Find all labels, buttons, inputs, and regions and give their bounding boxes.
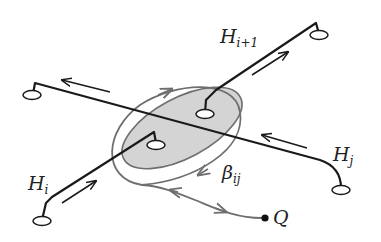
h-i1-outer-puncture (310, 31, 328, 40)
h-j-end-puncture (332, 186, 350, 195)
label-h-j-main: H (333, 143, 350, 165)
h-j-arrow-left (62, 80, 110, 92)
point-q (261, 214, 268, 221)
label-h-j: Hj (333, 145, 353, 167)
label-h-i-sub: i (45, 183, 49, 197)
diagram-canvas: Hi Hi+1 Hj βij Q (0, 0, 381, 242)
label-q-main: Q (273, 206, 289, 228)
h-i1-inner-puncture (196, 110, 214, 119)
h-i-outer-puncture (33, 217, 51, 226)
label-beta-main: β (222, 161, 233, 183)
label-h-i-plus-1: Hi+1 (220, 27, 258, 49)
tail-arrow-2 (215, 208, 226, 212)
label-q: Q (273, 208, 289, 227)
label-beta-ij: βij (222, 163, 241, 185)
label-h-j-sub: j (350, 154, 354, 168)
label-beta-sub: ij (233, 172, 241, 186)
diagram-svg (0, 0, 381, 242)
label-h-i-main: H (28, 172, 45, 194)
h-i-arrow (62, 181, 96, 203)
label-h-i1-sub: i+1 (237, 36, 259, 50)
tail-path (142, 185, 262, 218)
label-h-i: Hi (28, 174, 48, 196)
h-i-inner-puncture (147, 141, 165, 150)
label-h-i1-main: H (220, 25, 237, 47)
h-j-start-puncture (23, 91, 41, 100)
